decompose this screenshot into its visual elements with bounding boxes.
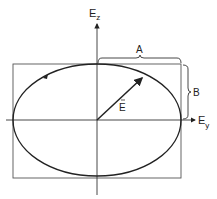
brace-b (183, 65, 191, 119)
ey-label: Ey (198, 114, 209, 130)
brace-b-label: B (193, 87, 200, 98)
brace-a (98, 55, 181, 63)
e-vector-label: E (119, 102, 126, 113)
polarization-diagram: Ez Ey A B E (0, 0, 217, 199)
e-vector (97, 78, 142, 120)
brace-a-label: A (136, 44, 143, 55)
ez-label: Ez (89, 7, 100, 22)
